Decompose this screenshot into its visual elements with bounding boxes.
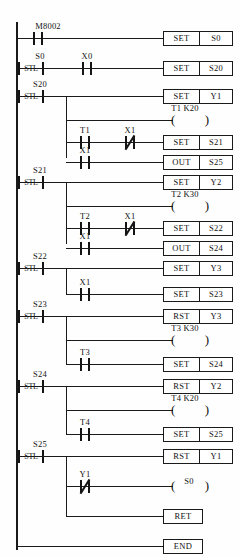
rung-wire-nw3-t1 — [66, 120, 173, 121]
instruction-op: RST — [164, 310, 200, 323]
rung-wire-nw5-main — [16, 268, 164, 269]
instruction-operand: S25 — [200, 428, 232, 441]
instruction-operand: S24 — [200, 242, 232, 255]
instruction-operand: Y3 — [200, 262, 232, 275]
instruction-operand: Y3 — [200, 310, 232, 323]
instruction-operand: S22 — [200, 222, 232, 235]
coil-paren-right: ) — [205, 112, 209, 127]
instruction-op: SET — [164, 428, 200, 441]
instruction-box-set-s21[interactable]: SET S21 — [163, 135, 233, 150]
instruction-op: RST — [164, 450, 200, 463]
instruction-box-set-s0[interactable]: SET S0 — [163, 31, 233, 46]
instruction-operand: Y2 — [200, 176, 232, 189]
instruction-box-set-y1[interactable]: SET Y1 — [163, 89, 233, 104]
coil-paren-left: ( — [171, 332, 175, 347]
rung-wire-nw3-main — [16, 96, 164, 97]
nc-slash — [78, 479, 93, 494]
contact-label-x1-b: X1 — [73, 146, 97, 155]
contact-label-t4: T4 — [73, 418, 97, 427]
contact-no-t4 — [79, 428, 91, 441]
rung-wire-nw8-ret — [66, 516, 164, 517]
step-label-s22: S22 — [22, 252, 58, 261]
instruction-operand: S25 — [200, 156, 232, 169]
instruction-op: SET — [164, 262, 200, 275]
instruction-operand: S21 — [200, 136, 232, 149]
instruction-box-set-s25[interactable]: SET S25 — [163, 427, 233, 442]
instruction-box-rst-y2[interactable]: RST Y2 — [163, 379, 233, 394]
instruction-operand: S0 — [200, 32, 232, 45]
contact-nc-y1 — [79, 480, 91, 493]
instruction-box-end[interactable]: END — [163, 539, 203, 554]
rung-wire-nw7-t4 — [66, 410, 173, 411]
instruction-op: SET — [164, 32, 200, 45]
instruction-box-rst-y3[interactable]: RST Y3 — [163, 309, 233, 324]
step-label-s21: S21 — [22, 166, 58, 175]
instruction-op: RET — [164, 510, 202, 523]
instruction-op: SET — [164, 358, 200, 371]
instruction-box-out-s24[interactable]: OUT S24 — [163, 241, 233, 256]
instruction-operand: S23 — [200, 288, 232, 301]
coil-paren-right: ) — [205, 198, 209, 213]
instruction-box-set-s22[interactable]: SET S22 — [163, 221, 233, 236]
branch-bus-nw4 — [66, 182, 67, 244]
contact-no-t3 — [79, 358, 91, 371]
rung-wire-nw4-main — [16, 182, 164, 183]
contact-label-x1-c: X1 — [118, 212, 142, 221]
contact-label-t3: T3 — [73, 348, 97, 357]
instruction-op: OUT — [164, 242, 200, 255]
coil-s0[interactable]: ( ) — [171, 479, 209, 493]
contact-no-x1-d — [79, 242, 91, 255]
instruction-op: SET — [164, 90, 200, 103]
step-label-s20: S20 — [22, 80, 58, 89]
rung-wire-nw4-t2 — [66, 206, 173, 207]
instruction-box-out-s25[interactable]: OUT S25 — [163, 155, 233, 170]
contact-label-y1: Y1 — [73, 470, 97, 479]
instruction-box-ret[interactable]: RET — [163, 509, 203, 524]
contact-no-x0 — [81, 62, 93, 75]
contact-label-x1-e: X1 — [73, 278, 97, 287]
instruction-operand: Y2 — [200, 380, 232, 393]
instruction-op: SET — [164, 222, 200, 235]
instruction-box-set-s20[interactable]: SET S20 — [163, 61, 233, 76]
contact-label-t1: T1 — [73, 126, 97, 135]
contact-label-x0: X0 — [72, 52, 102, 61]
rung-wire-nw6-t3 — [66, 340, 173, 341]
instruction-box-set-y2[interactable]: SET Y2 — [163, 175, 233, 190]
coil-paren-left: ( — [171, 112, 175, 127]
rung-wire-nw8-main — [16, 456, 164, 457]
coil-t1[interactable]: ( ) — [171, 113, 209, 127]
contact-no-m8002 — [32, 32, 44, 45]
branch-bus-nw5 — [66, 268, 67, 294]
step-label-s0: S0 — [22, 52, 58, 61]
instruction-operand: Y1 — [200, 450, 232, 463]
coil-t2[interactable]: ( ) — [171, 199, 209, 213]
contact-nc-x1 — [124, 136, 136, 149]
instruction-operand: S20 — [200, 62, 232, 75]
coil-t3[interactable]: ( ) — [171, 333, 209, 347]
contact-label-x1-d: X1 — [73, 232, 97, 241]
rung-wire-nw9-end — [16, 546, 164, 547]
step-label-s25: S25 — [22, 440, 58, 449]
contact-label-t2: T2 — [73, 212, 97, 221]
instruction-operand: Y1 — [200, 90, 232, 103]
nc-slash — [123, 221, 138, 236]
coil-paren-right: ) — [205, 332, 209, 347]
branch-bus-nw3 — [66, 96, 67, 158]
rung-wire-nw7-main — [16, 386, 164, 387]
instruction-op: SET — [164, 136, 200, 149]
contact-label-m8002: M8002 — [28, 22, 68, 31]
stl-contact-s0[interactable]: STL — [18, 62, 44, 75]
instruction-op: SET — [164, 176, 200, 189]
instruction-op: RST — [164, 380, 200, 393]
instruction-box-set-s23[interactable]: SET S23 — [163, 287, 233, 302]
rung-wire-nw6-main — [16, 316, 164, 317]
stl-text: STL — [18, 62, 44, 75]
instruction-operand: S24 — [200, 358, 232, 371]
instruction-op: SET — [164, 62, 200, 75]
instruction-box-set-s24-b[interactable]: SET S24 — [163, 357, 233, 372]
coil-t4[interactable]: ( ) — [171, 403, 209, 417]
instruction-box-rst-y1[interactable]: RST Y1 — [163, 449, 233, 464]
coil-paren-left: ( — [171, 478, 175, 493]
instruction-box-set-y3[interactable]: SET Y3 — [163, 261, 233, 276]
contact-nc-x1-c — [124, 222, 136, 235]
